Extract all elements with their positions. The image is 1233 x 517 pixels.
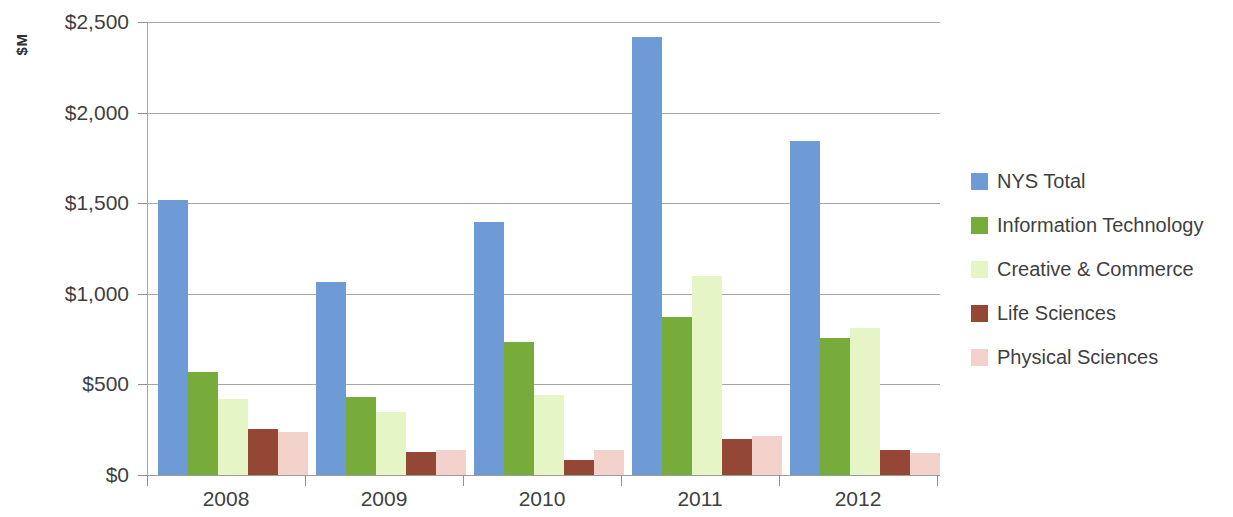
legend-item-label: Physical Sciences (997, 346, 1158, 369)
bar-group (316, 22, 474, 475)
bar (564, 460, 594, 475)
x-axis-tick-label: 2010 (463, 487, 621, 511)
x-axis-tick-label: 2012 (779, 487, 937, 511)
bar (316, 282, 346, 475)
bar (594, 450, 624, 475)
legend-item[interactable]: Information Technology (971, 208, 1233, 242)
bar (504, 342, 534, 475)
bar (474, 222, 504, 475)
bar-group (790, 22, 948, 475)
bar (534, 395, 564, 475)
bar (850, 328, 880, 475)
legend-item[interactable]: Creative & Commerce (971, 252, 1233, 286)
bar (158, 200, 188, 475)
y-axis-tick-label: $2,000 (33, 101, 129, 125)
x-axis-tick-mark (305, 475, 306, 486)
bar (752, 436, 782, 475)
bar-group (474, 22, 632, 475)
plot-area (147, 22, 940, 475)
bar (910, 453, 940, 475)
bar (662, 317, 692, 475)
y-axis-title-label: $M (14, 33, 31, 55)
legend-swatch-icon (971, 261, 988, 278)
legend-item-label: Creative & Commerce (997, 258, 1194, 281)
x-axis-tick-label: 2008 (147, 487, 305, 511)
legend-swatch-icon (971, 349, 988, 366)
legend-item[interactable]: NYS Total (971, 164, 1233, 198)
bar (218, 399, 248, 475)
bar-group (632, 22, 790, 475)
x-axis-tick-mark (621, 475, 622, 486)
bar (820, 338, 850, 475)
bar (406, 452, 436, 475)
y-axis-tick-mark (138, 113, 147, 114)
legend-item[interactable]: Physical Sciences (971, 340, 1233, 374)
legend-item[interactable]: Life Sciences (971, 296, 1233, 330)
legend-swatch-icon (971, 305, 988, 322)
y-axis-tick-mark (138, 475, 147, 476)
y-axis-tick-label: $1,000 (33, 282, 129, 306)
y-axis-tick-label: $1,500 (33, 191, 129, 215)
bar-groups (147, 22, 940, 475)
legend-swatch-icon (971, 217, 988, 234)
x-axis-tick-label: 2011 (621, 487, 779, 511)
x-axis-tick-mark (779, 475, 780, 486)
y-axis-tick-mark (138, 294, 147, 295)
bar (188, 372, 218, 475)
y-axis-tick-mark (138, 203, 147, 204)
bar-group (158, 22, 316, 475)
bar (790, 141, 820, 475)
gridline (147, 475, 940, 476)
legend-swatch-icon (971, 173, 988, 190)
y-axis-tick-label: $0 (33, 463, 129, 487)
legend-item-label: Information Technology (997, 214, 1203, 237)
legend-item-label: Life Sciences (997, 302, 1116, 325)
bar (346, 397, 376, 475)
legend-item-label: NYS Total (997, 170, 1086, 193)
x-axis-tick-label: 2009 (305, 487, 463, 511)
x-axis-tick-mark (463, 475, 464, 486)
bar (722, 439, 752, 475)
bar-chart: $M $0$500$1,000$1,500$2,000$2,500 200820… (0, 0, 1233, 517)
legend: NYS TotalInformation TechnologyCreative … (971, 164, 1233, 384)
y-axis-tick-mark (138, 22, 147, 23)
y-axis-tick-label: $500 (33, 372, 129, 396)
bar (376, 412, 406, 475)
bar (880, 450, 910, 475)
bar (632, 37, 662, 476)
bar (278, 432, 308, 475)
x-axis-tick-mark (147, 475, 148, 486)
bar (692, 276, 722, 475)
y-axis-tick-label: $2,500 (33, 10, 129, 34)
bar (248, 429, 278, 475)
y-axis-tick-mark (138, 384, 147, 385)
bar (436, 450, 466, 475)
x-axis-tick-mark (937, 475, 938, 486)
